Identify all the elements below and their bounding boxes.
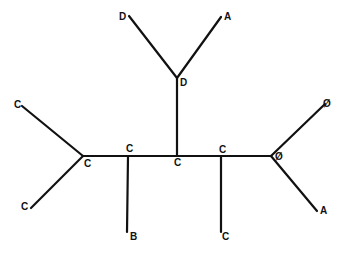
tree-edge-n_right-leaf_o	[271, 104, 325, 156]
tree-edge-n_top-leaf_a_t	[177, 17, 221, 78]
tree-edge-n_right-leaf_a_r	[271, 156, 317, 211]
node-label-leaf_c_ul: C	[14, 99, 21, 110]
node-label-leaf_a_r: A	[320, 205, 327, 216]
node-label-leaf_o: Ø	[323, 98, 331, 109]
node-label-leaf_a_t: A	[224, 11, 231, 22]
node-label-leaf_c_b: C	[222, 231, 229, 242]
node-labels: CCCCØDCCBDACØA	[14, 11, 331, 242]
node-label-n_left: C	[84, 158, 91, 169]
tree-edge-n_b-leaf_b	[127, 156, 128, 232]
tree-edges	[22, 16, 325, 232]
node-label-leaf_d: D	[119, 11, 126, 22]
node-label-leaf_c_ll: C	[21, 201, 28, 212]
tree-edge-leaf_c_ul-n_left	[22, 106, 83, 156]
node-label-leaf_b: B	[130, 231, 137, 242]
tree-edge-n_top-leaf_d	[129, 16, 177, 78]
node-label-n_top: D	[180, 77, 187, 88]
node-label-n_right: Ø	[275, 151, 283, 162]
tree-diagram: CCCCØDCCBDACØA	[0, 0, 349, 253]
node-label-n_b: C	[126, 143, 133, 154]
node-label-n_c2: C	[219, 144, 226, 155]
tree-edge-leaf_c_ll-n_left	[31, 156, 83, 208]
node-label-n_mid: C	[174, 157, 181, 168]
